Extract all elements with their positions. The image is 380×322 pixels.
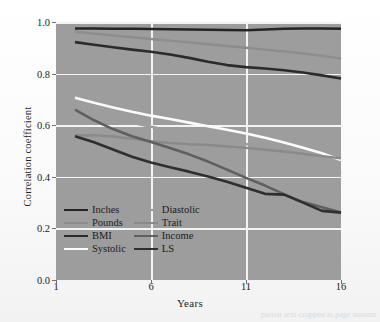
legend-label: Pounds <box>92 217 123 229</box>
legend-swatch-icon <box>64 248 88 251</box>
y-tick-mark <box>52 22 56 23</box>
x-tick-mark <box>151 280 152 284</box>
legend: InchesPoundsBMISystolic DiastolicTraitIn… <box>64 204 200 255</box>
legend-swatch-icon <box>134 235 158 238</box>
legend-label: Diastolic <box>162 204 200 216</box>
legend-label: Inches <box>92 204 119 216</box>
series-line-inches <box>75 28 341 30</box>
y-tick-label: 1.0 <box>37 17 50 28</box>
y-tick-label: 0.4 <box>37 171 50 182</box>
legend-item-inches[interactable]: Inches <box>64 204 126 216</box>
x-tick-mark <box>56 280 57 284</box>
y-tick-label: 0.8 <box>37 68 50 79</box>
chart-figure: Correlation coefficient 0.00.20.40.60.81… <box>0 0 380 322</box>
y-tick-mark <box>52 125 56 126</box>
x-tick-mark <box>341 280 342 284</box>
legend-item-systolic[interactable]: Systolic <box>64 243 126 255</box>
legend-item-diastolic[interactable]: Diastolic <box>134 204 200 216</box>
y-tick-mark <box>52 228 56 229</box>
legend-swatch-icon <box>64 222 88 225</box>
y-tick-label: 0.6 <box>37 120 50 131</box>
cropped-caption-text: partial text cropped at page bottom <box>0 313 380 319</box>
y-axis-tick-labels: 0.00.20.40.60.81.0 <box>20 22 52 280</box>
legend-item-income[interactable]: Income <box>134 230 200 242</box>
legend-label: Systolic <box>92 243 126 255</box>
cropped-caption: partial text cropped at page bottom <box>0 313 380 322</box>
legend-swatch-icon <box>134 248 158 251</box>
legend-label: Income <box>162 230 194 242</box>
series-line-pounds <box>75 32 341 59</box>
legend-label: BMI <box>92 230 112 242</box>
x-axis-title: Years <box>0 297 380 309</box>
legend-swatch-icon <box>64 235 88 238</box>
y-tick-mark <box>52 74 56 75</box>
legend-column-right: DiastolicTraitIncomeLS <box>134 204 200 255</box>
legend-item-bmi[interactable]: BMI <box>64 230 126 242</box>
legend-label: LS <box>162 243 174 255</box>
x-tick-mark <box>246 280 247 284</box>
legend-swatch-icon <box>64 209 88 212</box>
y-tick-mark <box>52 177 56 178</box>
legend-item-trait[interactable]: Trait <box>134 217 200 229</box>
series-line-diastolic <box>75 108 341 174</box>
legend-column-left: InchesPoundsBMISystolic <box>64 204 126 255</box>
page: Correlation coefficient 0.00.20.40.60.81… <box>0 0 380 322</box>
legend-label: Trait <box>162 217 182 229</box>
legend-item-ls[interactable]: LS <box>134 243 200 255</box>
legend-swatch-icon <box>134 209 158 212</box>
legend-swatch-icon <box>134 222 158 225</box>
x-axis-tick-labels: 161116 <box>0 281 380 297</box>
y-tick-label: 0.2 <box>37 223 50 234</box>
series-line-bmi <box>75 42 341 78</box>
legend-item-pounds[interactable]: Pounds <box>64 217 126 229</box>
plot-area: InchesPoundsBMISystolic DiastolicTraitIn… <box>56 22 341 280</box>
